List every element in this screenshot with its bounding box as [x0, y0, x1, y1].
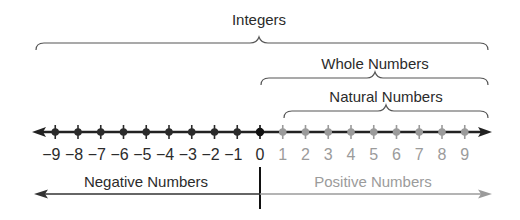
tick-dot [211, 128, 219, 136]
negative-arrow [34, 190, 260, 199]
natural-numbers-label: Natural Numbers [329, 88, 442, 105]
tick-dot [347, 128, 355, 136]
tick-label: 2 [301, 146, 310, 163]
tick-label: 9 [460, 146, 469, 163]
tick--9: −9 [42, 125, 60, 163]
whole-numbers-label: Whole Numbers [321, 55, 429, 72]
tick-dot [438, 128, 446, 136]
tick-dot [302, 128, 310, 136]
tick-label: 5 [369, 146, 378, 163]
tick-label: −1 [224, 146, 242, 163]
tick-4: 4 [347, 125, 356, 163]
tick-label: −2 [201, 146, 219, 163]
tick--1: −1 [224, 125, 242, 163]
tick-label: −6 [110, 146, 128, 163]
number-line: −9−8−7−6−5−4−3−2−10123456789 [32, 125, 492, 163]
tick--8: −8 [65, 125, 83, 163]
tick-label: −3 [179, 146, 197, 163]
tick--3: −3 [179, 125, 197, 163]
tick-dot [233, 128, 241, 136]
tick-label: −8 [65, 146, 83, 163]
tick-label: 3 [324, 146, 333, 163]
diagram-svg: Integers Whole Numbers Natural Numbers −… [0, 0, 520, 220]
positive-arrow [260, 190, 492, 199]
tick-dot [370, 128, 378, 136]
tick--7: −7 [88, 125, 106, 163]
tick-dot [97, 128, 105, 136]
tick-7: 7 [415, 125, 424, 163]
tick-label: 1 [278, 146, 287, 163]
whole-numbers-brace [261, 72, 488, 85]
tick-6: 6 [392, 125, 401, 163]
tick-label: 4 [347, 146, 356, 163]
number-line-diagram: Integers Whole Numbers Natural Numbers −… [0, 0, 520, 220]
tick-dot [142, 128, 150, 136]
tick-dot [51, 128, 59, 136]
tick-dot [165, 128, 173, 136]
negative-numbers-label: Negative Numbers [84, 173, 208, 190]
tick-9: 9 [460, 125, 469, 163]
tick-label: −5 [133, 146, 151, 163]
tick-3: 3 [324, 125, 333, 163]
tick-label: 0 [256, 146, 265, 163]
tick-label: 7 [415, 146, 424, 163]
tick--2: −2 [201, 125, 219, 163]
tick-8: 8 [438, 125, 447, 163]
integers-brace [36, 37, 488, 50]
positive-numbers-label: Positive Numbers [314, 173, 432, 190]
tick-0: 0 [256, 125, 265, 163]
tick--4: −4 [156, 125, 174, 163]
tick-2: 2 [301, 125, 310, 163]
tick-dot [74, 128, 82, 136]
tick-dot [324, 128, 332, 136]
tick-dot [256, 128, 264, 136]
tick-label: 6 [392, 146, 401, 163]
tick-label: −4 [156, 146, 174, 163]
integers-label: Integers [232, 11, 286, 28]
tick-dot [461, 128, 469, 136]
tick-dot [279, 128, 287, 136]
natural-numbers-brace [284, 105, 488, 118]
tick-dot [415, 128, 423, 136]
tick--6: −6 [110, 125, 128, 163]
tick-label: 8 [438, 146, 447, 163]
tick-dot [188, 128, 196, 136]
tick--5: −5 [133, 125, 151, 163]
tick-dot [393, 128, 401, 136]
tick-5: 5 [369, 125, 378, 163]
tick-label: −9 [42, 146, 60, 163]
tick-dot [120, 128, 128, 136]
tick-label: −7 [88, 146, 106, 163]
tick-1: 1 [278, 125, 287, 163]
